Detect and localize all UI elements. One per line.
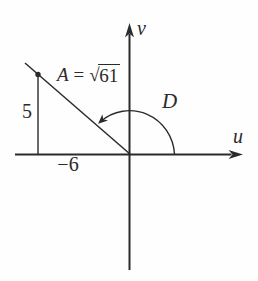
v-axis-label: v bbox=[137, 18, 146, 38]
vertical-component-label: 5 bbox=[19, 101, 35, 121]
magnitude-label: A = √ 61 bbox=[57, 64, 120, 86]
angle-arc bbox=[100, 111, 175, 155]
angle-label: D bbox=[162, 91, 177, 112]
magnitude-variable: A bbox=[57, 64, 69, 86]
radicand-value: 61 bbox=[98, 64, 120, 86]
vector-diagram: v u D 5 −6 A = √ 61 bbox=[0, 0, 258, 281]
equals-sign: = bbox=[74, 64, 85, 86]
diagram-canvas bbox=[0, 0, 258, 281]
horizontal-component-label: −6 bbox=[54, 154, 82, 174]
u-axis-label: u bbox=[233, 126, 243, 146]
